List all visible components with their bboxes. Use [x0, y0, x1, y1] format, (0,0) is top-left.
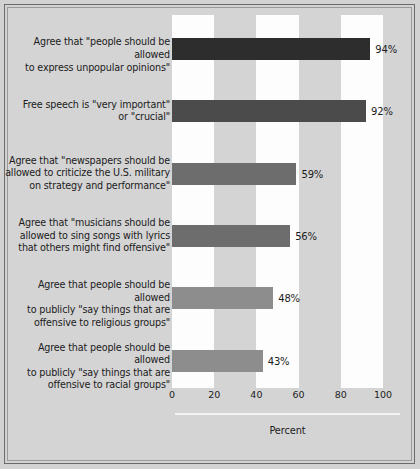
- x-tick-label: 100: [374, 389, 392, 400]
- bar: [172, 163, 296, 185]
- category-label: Agree that people should be allowed to p…: [4, 279, 170, 329]
- category-label-group: Agree that "people should be allowed to …: [2, 0, 170, 469]
- bar: [172, 350, 263, 372]
- x-tick-label: 60: [293, 389, 305, 400]
- bar-value-label: 48%: [278, 293, 300, 304]
- category-label: Agree that "musicians should be allowed …: [4, 217, 170, 255]
- category-label: Agree that "newspapers should be allowed…: [4, 155, 170, 193]
- bar-value-label: 56%: [295, 231, 317, 242]
- bar-value-label: 92%: [371, 106, 393, 117]
- bar: [172, 287, 273, 309]
- background-band: [256, 15, 298, 388]
- x-tick-label: 0: [169, 389, 175, 400]
- axis-rule: [175, 413, 400, 415]
- background-band: [341, 15, 383, 388]
- category-label: Agree that "people should be allowed to …: [4, 36, 170, 74]
- background-band: [214, 15, 256, 388]
- x-tick-label: 20: [208, 389, 220, 400]
- x-tick-label: 40: [250, 389, 262, 400]
- bar: [172, 100, 366, 122]
- bar-value-label: 59%: [301, 169, 323, 180]
- background-band: [299, 15, 341, 388]
- x-axis-tick-group: 020406080100: [172, 389, 383, 403]
- bar: [172, 225, 290, 247]
- chart-figure: 94%92%59%56%48%43% Agree that "people sh…: [0, 0, 420, 469]
- plot-area: [172, 15, 383, 388]
- x-axis-title: Percent: [175, 425, 400, 436]
- bar: [172, 38, 370, 60]
- bar-value-label: 43%: [268, 356, 290, 367]
- bar-value-label: 94%: [375, 44, 397, 55]
- category-label: Agree that people should be allowed to p…: [4, 342, 170, 392]
- background-band: [172, 15, 214, 388]
- category-label: Free speech is "very important" or "cruc…: [4, 99, 170, 124]
- x-tick-label: 80: [335, 389, 347, 400]
